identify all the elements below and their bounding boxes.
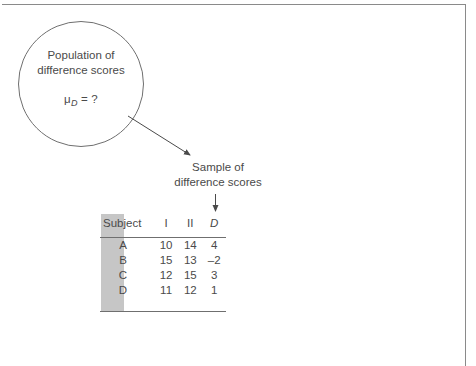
sample-label-line1: Sample of: [150, 160, 286, 175]
table-head: Subject I II D: [100, 214, 226, 232]
table-row: A 10 14 4: [100, 232, 226, 253]
cell-d: 4: [202, 232, 226, 253]
sample-label: Sample of difference scores: [150, 160, 286, 190]
cell-d: 1: [202, 283, 226, 298]
header-difference-d: D: [202, 214, 226, 232]
cell-ii: 14: [178, 232, 202, 253]
sample-label-line2: difference scores: [150, 175, 286, 190]
header-condition-i: I: [154, 214, 178, 232]
table-row: C 12 15 3: [100, 268, 226, 283]
cell-ii: 12: [178, 283, 202, 298]
table-header-row: Subject I II D: [100, 214, 226, 232]
difference-scores-table: Subject I II D A 10 14 4 B 15 13 –2: [100, 214, 226, 298]
header-subject: Subject: [100, 214, 154, 232]
difference-scores-table-wrapper: Subject I II D A 10 14 4 B 15 13 –2: [100, 214, 226, 298]
table-row: B 15 13 –2: [100, 253, 226, 268]
cell-subject: B: [100, 253, 154, 268]
cell-subject: C: [100, 268, 154, 283]
table-bottom-rule: [100, 311, 226, 312]
cell-subject: D: [100, 283, 154, 298]
diagonal-arrow-population-to-sample: [128, 116, 190, 155]
cell-i: 10: [154, 232, 178, 253]
table-body: A 10 14 4 B 15 13 –2 C 12 15 3: [100, 232, 226, 298]
cell-ii: 15: [178, 268, 202, 283]
cell-d: 3: [202, 268, 226, 283]
table-row: D 11 12 1: [100, 283, 226, 298]
cell-i: 15: [154, 253, 178, 268]
header-condition-ii: II: [178, 214, 202, 232]
cell-d: –2: [202, 253, 226, 268]
cell-i: 11: [154, 283, 178, 298]
cell-ii: 13: [178, 253, 202, 268]
cell-i: 12: [154, 268, 178, 283]
figure-container: Population of difference scores μD = ? S…: [0, 0, 476, 366]
cell-subject: A: [100, 232, 154, 253]
